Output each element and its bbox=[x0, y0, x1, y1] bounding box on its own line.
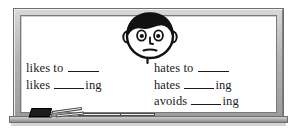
phrase-line: likes ing bbox=[26, 77, 102, 94]
phrase-line: hates to bbox=[154, 60, 239, 77]
phrase-line: avoids ing bbox=[154, 93, 239, 110]
fill-in-blank[interactable] bbox=[191, 95, 221, 105]
phrase-suffix: ing bbox=[85, 78, 101, 92]
phrase-prefix: avoids bbox=[154, 94, 187, 108]
phrase-line: likes to bbox=[26, 60, 102, 77]
fill-in-blank[interactable] bbox=[68, 62, 99, 72]
chalk-stick bbox=[120, 113, 155, 116]
tray-shadow bbox=[11, 123, 286, 126]
fill-in-blank[interactable] bbox=[184, 79, 214, 89]
phrase-suffix: ing bbox=[215, 78, 231, 92]
fill-in-blank[interactable] bbox=[54, 79, 84, 89]
board-illustration: likes to likes ing hates to hates ing av… bbox=[0, 0, 297, 139]
board-text: likes to likes ing hates to hates ing av… bbox=[26, 60, 272, 112]
phrase-prefix: hates to bbox=[154, 61, 193, 75]
phrase-prefix: likes bbox=[26, 78, 50, 92]
fill-in-blank[interactable] bbox=[198, 62, 229, 72]
likes-column: likes to likes ing bbox=[26, 60, 102, 93]
face-drawing bbox=[119, 10, 181, 65]
phrase-line: hates ing bbox=[154, 77, 239, 94]
cartoon-face bbox=[119, 10, 181, 65]
phrase-prefix: hates bbox=[154, 78, 180, 92]
eraser bbox=[29, 108, 53, 117]
phrase-suffix: ing bbox=[222, 94, 238, 108]
hates-column: hates to hates ing avoids ing bbox=[154, 60, 239, 110]
chalk-stick bbox=[78, 113, 122, 116]
phrase-prefix: likes to bbox=[26, 61, 63, 75]
